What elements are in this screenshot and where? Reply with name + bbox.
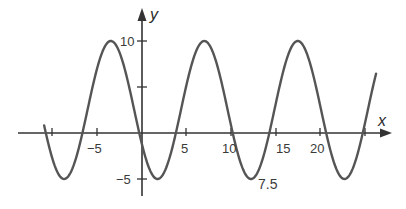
- x-ticks: [52, 128, 365, 136]
- y-tick-label-neg5: −5: [116, 172, 131, 187]
- y-axis-arrow-icon: [138, 8, 147, 21]
- y-tick-label-10: 10: [120, 34, 134, 49]
- chart-canvas: y x 10 −5 −5 5 10 15 20 7.5: [0, 0, 406, 209]
- y-axis-label: y: [149, 6, 159, 23]
- amplitude-annotation: 7.5: [258, 176, 278, 192]
- x-tick-label-20: 20: [310, 141, 324, 156]
- cosine-curve: [44, 41, 376, 179]
- x-tick-label-neg5: −5: [87, 141, 102, 156]
- x-tick-label-15: 15: [276, 141, 290, 156]
- x-axis-label: x: [377, 112, 387, 129]
- x-tick-label-5: 5: [181, 141, 188, 156]
- x-axis-arrow-icon: [380, 129, 392, 138]
- x-tick-label-10: 10: [222, 141, 236, 156]
